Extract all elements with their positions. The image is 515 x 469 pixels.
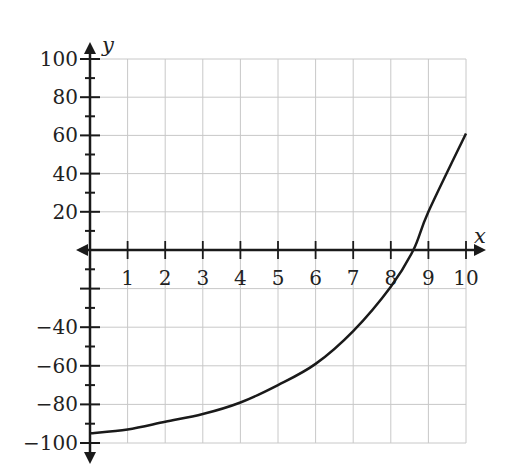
y-tick-label: −40: [36, 315, 78, 339]
y-tick-label: −100: [23, 431, 78, 455]
x-tick-label: 7: [347, 266, 360, 290]
y-axis-label: y: [101, 33, 115, 57]
y-tick-label: 80: [53, 85, 78, 109]
x-tick-label: 4: [234, 266, 247, 290]
y-axis-down-arrow-icon: [84, 452, 96, 464]
x-axis-left-arrow-icon: [76, 244, 88, 256]
y-tick-label: −60: [36, 354, 78, 378]
x-tick-label: 6: [309, 266, 322, 290]
x-tick-label: 2: [159, 266, 172, 290]
x-tick-label: 1: [121, 266, 134, 290]
y-tick-label: 40: [53, 162, 78, 186]
axes: [76, 42, 486, 464]
x-tick-label: 10: [453, 266, 478, 290]
y-axis-up-arrow-icon: [84, 42, 96, 54]
chart: 1234567891010080604020−40−60−80−100 x y: [0, 0, 515, 469]
y-tick-label: 20: [53, 200, 78, 224]
x-axis-label: x: [474, 224, 486, 248]
x-tick-label: 9: [422, 266, 435, 290]
x-tick-label: 3: [196, 266, 209, 290]
y-tick-label: 100: [40, 47, 78, 71]
y-tick-label: 60: [53, 123, 78, 147]
x-tick-label: 5: [272, 266, 285, 290]
y-tick-label: −80: [36, 392, 78, 416]
